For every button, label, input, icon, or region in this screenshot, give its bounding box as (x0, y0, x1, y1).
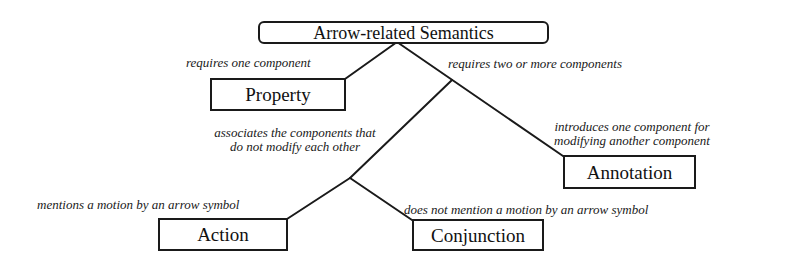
annotation-node: Annotation (563, 155, 696, 189)
edge-label-does-not-mention-motion: does not mention a motion by an arrow sy… (404, 203, 648, 217)
edge-label-introduces-line1: introduces one component for (528, 120, 736, 134)
root-label: Arrow-related Semantics (313, 24, 493, 42)
edge-label-associates-line1: associates the components that (212, 126, 378, 140)
edge-label-associates: associates the components that do not mo… (212, 126, 378, 154)
edge-assoc-conjunction (350, 178, 412, 220)
edge-label-mentions-motion: mentions a motion by an arrow symbol (37, 198, 239, 212)
semantics-tree-diagram: Arrow-related Semantics requires one com… (0, 0, 792, 271)
action-label: Action (197, 225, 249, 244)
edge-label-introduces-line2: modifying another component (528, 134, 736, 148)
edge-label-requires-two-or-more: requires two or more components (448, 57, 622, 71)
property-node: Property (210, 78, 346, 111)
action-node: Action (158, 218, 288, 251)
property-label: Property (245, 85, 310, 104)
edge-label-associates-line2: do not modify each other (212, 140, 378, 154)
conjunction-node: Conjunction (412, 219, 544, 251)
edge-label-requires-one: requires one component (186, 56, 311, 70)
edge-label-introduces: introduces one component for modifying a… (528, 120, 736, 148)
edge-assoc-action (287, 178, 350, 219)
root-node: Arrow-related Semantics (258, 21, 549, 44)
conjunction-label: Conjunction (431, 226, 525, 245)
annotation-label: Annotation (587, 163, 673, 182)
edge-root-property (345, 42, 397, 79)
